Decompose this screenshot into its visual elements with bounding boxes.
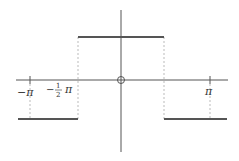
label-neg-half-denominator: 2 <box>56 91 60 99</box>
label-neg-half-minus: − <box>46 84 54 95</box>
label-neg-half-pi: π <box>64 83 73 96</box>
label-neg-half-numerator: 1 <box>56 82 60 90</box>
label-pos-pi: π <box>204 85 213 98</box>
square-wave-diagram: −π − 1 2 π π <box>0 0 239 161</box>
label-neg-pi: −π <box>17 86 34 99</box>
